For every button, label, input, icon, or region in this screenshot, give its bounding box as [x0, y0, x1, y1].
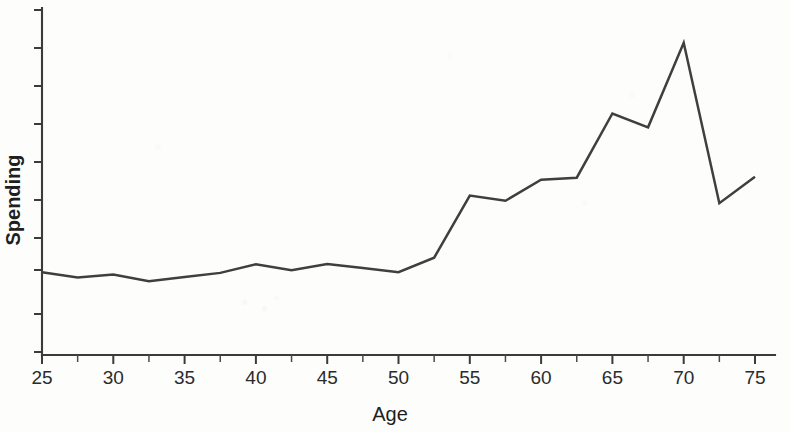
axes-group [42, 8, 775, 355]
chart-figure: 2530354045505560657075 Age Spending [0, 0, 790, 432]
spending-line-series [42, 43, 755, 281]
x-tick-label: 25 [31, 367, 52, 388]
x-axis-title: Age [372, 403, 408, 425]
x-axis-tick-labels: 2530354045505560657075 [31, 367, 765, 388]
y-axis-ticks [34, 10, 42, 352]
x-tick-label: 50 [388, 367, 409, 388]
x-tick-label: 60 [531, 367, 552, 388]
x-tick-label: 75 [744, 367, 765, 388]
line-chart-plot: 2530354045505560657075 Age Spending [0, 0, 790, 432]
y-axis-title: Spending [2, 154, 24, 245]
x-tick-label: 45 [317, 367, 338, 388]
x-tick-label: 30 [103, 367, 124, 388]
x-tick-label: 65 [602, 367, 623, 388]
x-tick-label: 35 [174, 367, 195, 388]
x-tick-label: 40 [245, 367, 266, 388]
x-tick-label: 55 [459, 367, 480, 388]
x-tick-label: 70 [673, 367, 694, 388]
